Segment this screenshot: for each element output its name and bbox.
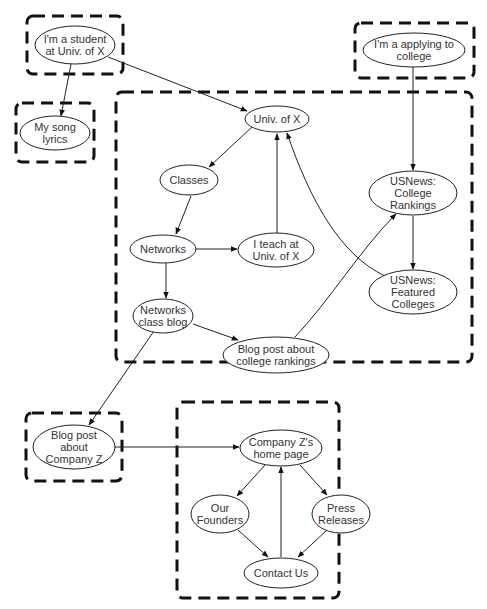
node-song: My songlyrics <box>20 116 90 150</box>
node-blogrank: Blog post aboutcollege rankings <box>223 337 329 373</box>
edge-netblog-to-blogz <box>89 331 154 425</box>
node-label: College <box>394 187 431 199</box>
node-univ: Univ. of X <box>245 106 309 132</box>
node-label: I'm a applying to <box>374 38 454 50</box>
node-label: Classes <box>169 174 209 186</box>
node-label: Colleges <box>392 298 435 310</box>
node-label: home page <box>253 448 308 460</box>
node-applying: I'm a applying tocollege <box>363 33 465 67</box>
edge-founders-to-contact <box>238 530 268 557</box>
node-label: Company Z's <box>249 436 314 448</box>
edge-blogrank-to-usnews_rank <box>295 214 396 337</box>
node-label: USNews: <box>390 274 436 286</box>
node-netblog: Networksclass blog <box>133 299 193 333</box>
node-label: Networks <box>140 243 186 255</box>
edge-student-to-univ <box>108 57 247 111</box>
node-label: Rankings <box>390 199 436 211</box>
node-student: I'm a studentat Univ. of X <box>35 26 115 64</box>
nodes: I'm a studentat Univ. of XMy songlyricsI… <box>20 26 465 588</box>
edge-classes-to-networks <box>176 196 191 234</box>
node-networks: Networks <box>130 235 196 263</box>
node-label: My song <box>34 121 76 133</box>
node-label: Contact Us <box>254 567 309 579</box>
edge-student-to-song <box>61 64 71 116</box>
edge-zhome-to-press <box>300 465 327 495</box>
node-classes: Classes <box>160 165 218 195</box>
node-label: lyrics <box>42 133 68 145</box>
node-label: Company Z <box>46 453 103 465</box>
node-label: Blog post about <box>238 343 314 355</box>
node-label: Networks <box>140 304 186 316</box>
node-label: Featured <box>391 286 435 298</box>
node-label: I'm a student <box>44 33 107 45</box>
node-zhome: Company Z'shome page <box>240 430 322 466</box>
node-label: college rankings <box>236 355 316 367</box>
node-blogz: Blog postaboutCompany Z <box>33 425 115 469</box>
node-label: class blog <box>139 316 188 328</box>
node-contact: Contact Us <box>244 558 318 588</box>
node-label: Univ. of X <box>253 250 301 262</box>
node-label: Press <box>327 502 356 514</box>
edge-zhome-to-founders <box>237 465 265 496</box>
node-label: at Univ. of X <box>45 45 105 57</box>
node-label: college <box>397 50 432 62</box>
node-press: PressReleases <box>312 495 370 533</box>
web-graph-diagram: I'm a studentat Univ. of XMy songlyricsI… <box>0 0 487 609</box>
node-founders: OurFounders <box>191 495 249 533</box>
node-usnews_rank: USNews:CollegeRankings <box>369 171 457 215</box>
edge-univ-to-classes <box>209 127 252 167</box>
node-label: USNews: <box>390 175 436 187</box>
node-label: I teach at <box>253 238 298 250</box>
node-label: Univ. of X <box>254 113 302 125</box>
node-label: Our <box>211 502 230 514</box>
edge-press-to-contact <box>298 530 327 557</box>
node-label: Founders <box>197 514 244 526</box>
node-teach: I teach atUniv. of X <box>238 233 314 267</box>
edge-netblog-to-blogrank <box>193 324 238 340</box>
node-label: about <box>60 441 88 453</box>
node-label: Releases <box>318 514 364 526</box>
node-label: Blog post <box>51 429 97 441</box>
node-usnews_feat: USNews:FeaturedColleges <box>369 270 457 314</box>
